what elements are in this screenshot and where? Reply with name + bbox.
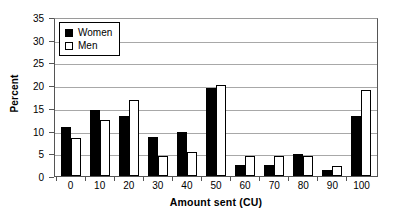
bar-women-90 [322, 170, 332, 176]
bar-men-90 [332, 166, 342, 176]
bar-women-40 [177, 132, 187, 176]
bar-men-70 [274, 156, 284, 176]
bar-men-80 [303, 156, 313, 176]
bar-chart: Percent 05101520253035 01020304050607080… [0, 0, 400, 217]
bar-women-0 [61, 127, 71, 176]
x-axis-title: Amount sent (CU) [54, 196, 378, 208]
x-tick-label: 60 [231, 180, 260, 191]
x-tick-label: 40 [172, 180, 201, 191]
x-tick-label: 100 [347, 180, 376, 191]
y-tick-label: 0 [38, 172, 44, 183]
legend-swatch-men-icon [65, 42, 73, 50]
y-tick-label: 25 [33, 58, 44, 69]
y-tick-label: 5 [38, 149, 44, 160]
legend-label-men: Men [78, 40, 97, 51]
x-tick-label: 10 [85, 180, 114, 191]
bar-men-50 [216, 85, 226, 176]
bar-men-40 [187, 152, 197, 176]
bar-women-60 [235, 165, 245, 176]
bar-group [230, 19, 259, 176]
y-tick-label: 30 [33, 35, 44, 46]
bar-men-30 [158, 156, 168, 176]
x-tick-label: 30 [143, 180, 172, 191]
bar-women-70 [264, 165, 274, 176]
legend-label-women: Women [78, 27, 112, 38]
bar-men-0 [71, 138, 81, 176]
legend-swatch-women-icon [65, 29, 73, 37]
x-tick-label: 80 [289, 180, 318, 191]
legend-item-women: Women [65, 26, 112, 39]
bar-group [202, 19, 231, 176]
bar-group [259, 19, 288, 176]
bar-group [144, 19, 173, 176]
y-axis-labels: 05101520253035 [0, 0, 54, 217]
bar-group [317, 19, 346, 176]
bar-women-20 [119, 116, 129, 176]
bar-men-100 [361, 90, 371, 176]
bar-men-60 [245, 156, 255, 176]
bar-women-10 [90, 110, 100, 176]
y-tick-label: 10 [33, 126, 44, 137]
bar-group [173, 19, 202, 176]
bar-men-20 [129, 100, 139, 176]
x-tick-label: 20 [114, 180, 143, 191]
y-tick-label: 15 [33, 103, 44, 114]
x-tick-label: 50 [201, 180, 230, 191]
x-axis-labels: 0102030405060708090100 [54, 180, 378, 191]
x-tick-label: 0 [56, 180, 85, 191]
bar-group [288, 19, 317, 176]
x-tick-label: 90 [318, 180, 347, 191]
bar-women-80 [293, 154, 303, 176]
y-tick-label: 20 [33, 81, 44, 92]
y-tick-label: 35 [33, 13, 44, 24]
bar-men-10 [100, 120, 110, 176]
bar-women-30 [148, 137, 158, 176]
bar-women-100 [351, 116, 361, 176]
bar-women-50 [206, 88, 216, 176]
bar-group [346, 19, 375, 176]
legend: Women Men [59, 22, 120, 56]
legend-item-men: Men [65, 39, 112, 52]
x-tick-label: 70 [260, 180, 289, 191]
